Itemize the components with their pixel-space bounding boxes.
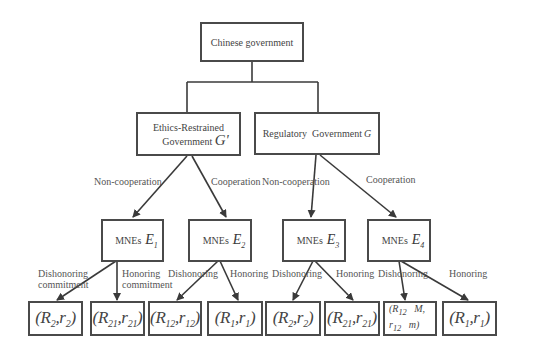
payoff-R-sub: 21 xyxy=(343,318,352,329)
edge-label-honoring-2: Honoring xyxy=(230,268,268,279)
node-symbol: G' xyxy=(215,132,229,148)
payoff-R: R xyxy=(332,308,342,327)
payoff-expression: (R21,r21) xyxy=(327,308,377,329)
payoff-R: R xyxy=(278,308,288,327)
payoff-line2: r12 m) xyxy=(389,319,425,335)
payoff-expression: (R1,r1) xyxy=(215,308,256,329)
leaf-payoff-8: (R1,r1) xyxy=(442,301,497,336)
node-mnes-e2: MNEs E2 xyxy=(188,219,252,262)
payoff-r-sub: 21 xyxy=(128,318,137,329)
node-label: MNEs xyxy=(203,234,229,247)
symbol-letter: E xyxy=(145,232,154,247)
payoff-expression: (R21,r21) xyxy=(93,308,143,329)
node-label: MNEs xyxy=(115,234,141,247)
node-label: MNEs xyxy=(297,234,323,247)
payoff-R: R xyxy=(155,308,165,327)
symbol-sub: 3 xyxy=(335,240,339,249)
symbol-sub: 2 xyxy=(241,240,245,249)
paren-close: ) xyxy=(484,308,489,327)
node-ethics-restrained-government: Ethics-Restrained Government G' xyxy=(136,112,241,156)
edge-label-line2: commitment xyxy=(122,279,173,290)
edge-label-dishonoring-2: Dishonoring xyxy=(168,268,218,279)
payoff-r-sub: 12 xyxy=(185,318,194,329)
node-chinese-government: Chinese government xyxy=(200,22,304,62)
edge-label-dishonoring-commitment: Dishonoring commitment xyxy=(38,268,89,290)
node-symbol: E3 xyxy=(327,232,340,250)
node-regulatory-government: Regulatory Government G xyxy=(254,112,380,155)
payoff-R: R xyxy=(98,308,108,327)
paren-close: ) xyxy=(137,308,142,327)
payoff-R-sub: 21 xyxy=(108,318,117,329)
payoff-expression: (R2,r2) xyxy=(273,308,314,329)
edge-label-non-cooperation-1: Non-cooperation xyxy=(94,176,162,187)
node-label-line2-wrap: Government G' xyxy=(148,134,229,148)
payoff-expression: (R1,r1) xyxy=(449,308,490,329)
edge-label-honoring-commitment: Honoring commitment xyxy=(122,268,173,290)
leaf-payoff-5: (R2,r2) xyxy=(265,301,321,336)
node-mnes-e4: MNEs E4 xyxy=(367,219,431,262)
payoff-r-sub: 21 xyxy=(362,318,371,329)
payoff-R-sub: 12 xyxy=(398,308,406,317)
leaf-payoff-3: (R12,r12) xyxy=(148,301,202,336)
node-label: Chinese government xyxy=(211,36,293,49)
edge-label-cooperation-2: Cooperation xyxy=(366,174,415,185)
paren-close: ) xyxy=(372,308,377,327)
node-symbol: E1 xyxy=(145,232,158,250)
node-symbol: G xyxy=(364,127,371,140)
node-label-line1: Ethics-Restrained xyxy=(153,121,224,134)
paren-close: ) xyxy=(250,308,255,327)
paren-close: ) xyxy=(195,308,200,327)
payoff-m: m) xyxy=(409,319,420,330)
edge-label-honoring-3: Honoring xyxy=(336,268,374,279)
leaf-payoff-2: (R21,r21) xyxy=(90,301,145,336)
payoff-expression: (R12,r12) xyxy=(150,308,200,329)
payoff-r-sub: 12 xyxy=(393,324,401,333)
paren-close: ) xyxy=(70,308,75,327)
payoff-R: R xyxy=(220,308,230,327)
leaf-payoff-7: (R12 M, r12 m) xyxy=(383,301,437,336)
symbol-sub: 1 xyxy=(154,240,158,249)
edge-label-dishonoring-3: Dishonoring xyxy=(272,268,322,279)
payoff-R: R xyxy=(41,308,51,327)
edge-label-line2: commitment xyxy=(38,279,89,290)
edge-label-line1: Dishonoring xyxy=(38,268,89,279)
payoff-R: R xyxy=(455,308,465,327)
node-mnes-e1: MNEs E1 xyxy=(101,219,164,262)
payoff-expression: (R12 M, r12 m) xyxy=(389,303,425,335)
payoff-line1: (R12 M, xyxy=(389,303,425,319)
edge-label-cooperation-1: Cooperation xyxy=(211,176,260,187)
node-symbol: E4 xyxy=(412,232,425,250)
node-label: MNEs xyxy=(382,234,408,247)
leaf-payoff-6: (R21,r21) xyxy=(324,301,380,336)
edge-label-honoring-4: Honoring xyxy=(449,268,487,279)
edge-label-non-cooperation-2: Non-cooperation xyxy=(262,176,330,187)
node-symbol: E2 xyxy=(233,232,246,250)
edge-label-line1: Honoring xyxy=(122,268,173,279)
leaf-payoff-4: (R1,r1) xyxy=(207,301,263,336)
node-mnes-e3: MNEs E3 xyxy=(282,219,346,262)
symbol-sub: 4 xyxy=(420,240,424,249)
payoff-expression: (R2,r2) xyxy=(35,308,76,329)
leaf-payoff-1: (R2,r2) xyxy=(28,301,83,336)
payoff-R-sub: 12 xyxy=(166,318,175,329)
node-label: Regulatory Government xyxy=(263,127,362,140)
payoff-M: M, xyxy=(414,303,425,314)
edge-label-dishonoring-4: Dishonoring xyxy=(378,268,428,279)
paren-close: ) xyxy=(308,308,313,327)
node-label-line2: Government xyxy=(162,136,212,147)
